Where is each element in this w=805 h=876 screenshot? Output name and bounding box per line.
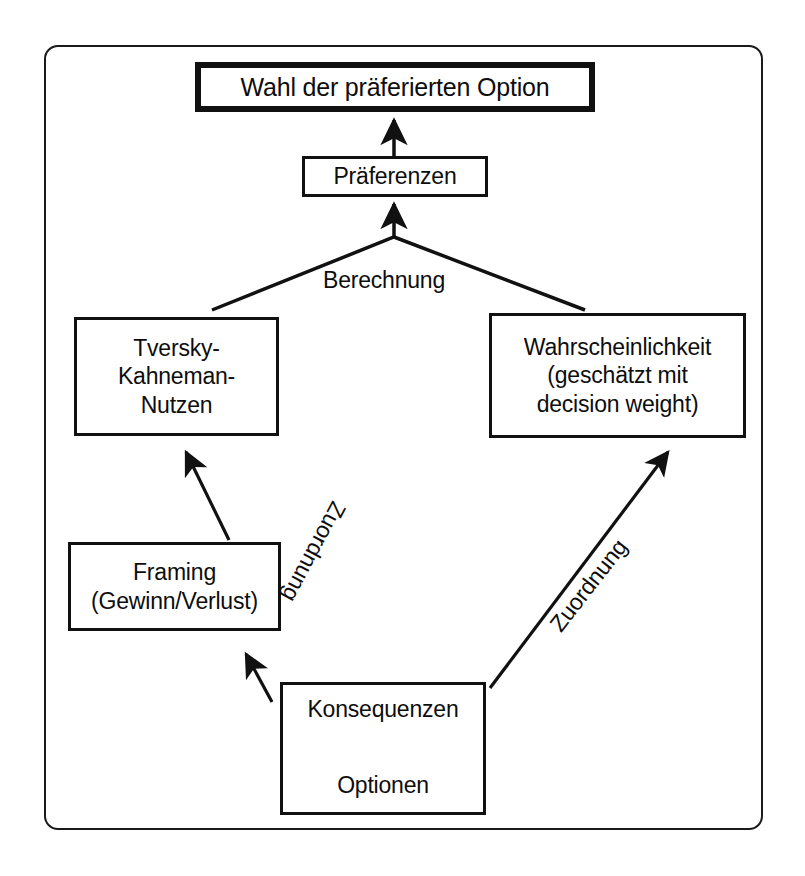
node-tversky-kahneman-nutzen[interactable]: Tversky- Kahneman- Nutzen [74,317,279,436]
diagram-canvas: Wahl der präferierten Option Präferenzen… [0,0,805,876]
node-praeferenzen[interactable]: Präferenzen [302,156,488,197]
node-probability-label-line2: (geschätzt mit [547,361,687,389]
node-wahrscheinlichkeit[interactable]: Wahrscheinlichkeit (geschätzt mit decisi… [489,313,746,438]
node-utility-label-line3: Nutzen [141,391,213,419]
node-wahl-der-praeferierten-option[interactable]: Wahl der präferierten Option [195,62,595,112]
node-preferences-label: Präferenzen [333,162,456,190]
node-utility-label-line1: Tversky- [133,334,220,362]
node-konsequenzen[interactable]: Konsequenzen Optionen [280,682,486,815]
node-framing-label-line1: Framing [133,558,216,586]
node-utility-label-line2: Kahneman- [118,362,235,390]
node-framing[interactable]: Framing (Gewinn/Verlust) [68,542,281,631]
node-choice-label: Wahl der präferierten Option [241,72,550,103]
node-optionen-label: Optionen [337,773,429,798]
node-probability-label-line3: decision weight) [537,390,699,418]
node-framing-label-line2: (Gewinn/Verlust) [91,587,258,615]
node-consequences-label: Konsequenzen [307,697,458,722]
node-probability-label-line1: Wahrscheinlichkeit [524,333,711,361]
edge-label-berechnung: Berechnung [323,267,445,294]
